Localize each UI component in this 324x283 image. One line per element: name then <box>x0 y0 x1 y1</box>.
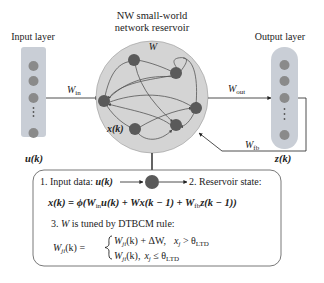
reservoir-node-x <box>129 123 141 135</box>
reservoir-node <box>98 95 110 107</box>
input-node <box>29 128 39 138</box>
reservoir-state-label: x(k) <box>106 123 124 135</box>
step1-text: 1. Input data: u(k) <box>40 176 113 188</box>
reservoir-node <box>170 119 182 131</box>
reservoir-circle <box>96 41 208 153</box>
input-ellipsis-dot <box>33 107 35 109</box>
w-out-label: Wout <box>228 83 245 96</box>
step2-text: 2. Reservoir state: <box>189 176 261 187</box>
reservoir-title-line1: NW small-world <box>117 10 188 21</box>
output-node <box>280 76 290 86</box>
input-node <box>29 93 39 103</box>
output-node <box>280 60 290 70</box>
input-ellipsis-dot <box>33 111 35 113</box>
w-fb-label: Wfb <box>245 139 260 152</box>
output-node <box>280 130 290 140</box>
input-vector-label: u(k) <box>25 153 43 165</box>
reservoir-node <box>128 54 140 66</box>
reservoir-node <box>190 102 202 114</box>
output-node <box>280 93 290 103</box>
junction-node <box>145 175 159 189</box>
input-node <box>29 76 39 86</box>
output-ellipsis-dot <box>284 118 286 120</box>
input-layer-column <box>21 47 46 137</box>
output-ellipsis-dot <box>284 108 286 110</box>
input-layer-label: Input layer <box>11 31 55 42</box>
reservoir-node <box>170 67 182 79</box>
input-node <box>29 61 39 71</box>
output-layer-label: Output layer <box>255 31 306 42</box>
input-ellipsis-dot <box>33 115 35 117</box>
output-vector-label: z(k) <box>274 153 291 165</box>
reservoir-diagram: NW small-world network reservoir Input l… <box>0 0 324 283</box>
output-ellipsis-dot <box>284 113 286 115</box>
step3-text: 3. W is tuned by DTBCM rule: <box>51 218 175 229</box>
w-in-label: Win <box>67 84 81 97</box>
reservoir-title-line2: network reservoir <box>115 22 190 33</box>
